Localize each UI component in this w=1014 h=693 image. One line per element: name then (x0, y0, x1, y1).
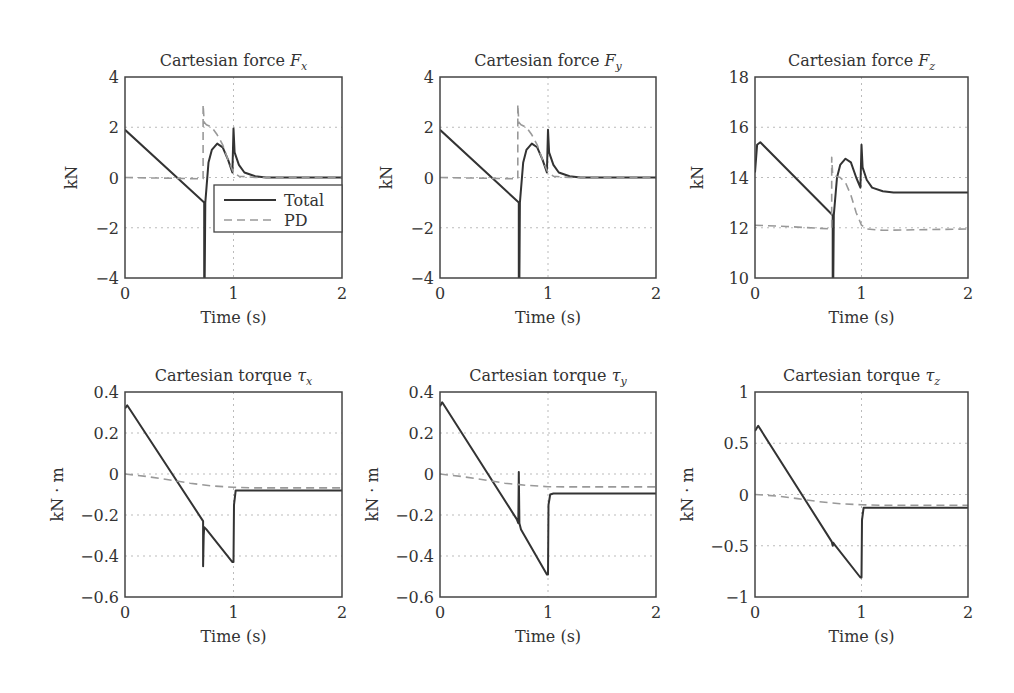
x-axis-label: Time (s) (200, 627, 266, 646)
subplot-title: Cartesian torque τz (783, 366, 940, 388)
y-tick-label: −0.5 (710, 537, 749, 556)
y-tick-label: 0 (739, 486, 749, 505)
y-tick-label: −0.2 (80, 506, 119, 525)
pd-series-line (755, 495, 968, 506)
y-tick-label: 14 (729, 169, 749, 188)
subplot-6: 012−1−0.500.51Cartesian torque τzTime (s… (678, 366, 973, 646)
x-tick-label: 0 (435, 284, 445, 303)
legend: TotalPD (214, 185, 342, 232)
x-axis-label: Time (s) (828, 308, 894, 327)
y-tick-label: 2 (109, 118, 119, 137)
y-axis-label: kN (688, 166, 707, 190)
subplot-title: Cartesian torque τx (155, 366, 313, 388)
y-axis-label: kN (377, 166, 396, 190)
subplot-title: Cartesian force Fz (788, 51, 935, 73)
x-tick-label: 2 (963, 603, 973, 622)
x-tick-label: 1 (228, 284, 238, 303)
pd-series-line (440, 474, 656, 487)
x-tick-label: 1 (856, 284, 866, 303)
y-tick-label: 4 (424, 68, 434, 87)
x-tick-label: 0 (120, 603, 130, 622)
y-tick-label: 4 (109, 68, 119, 87)
y-tick-label: 2 (424, 118, 434, 137)
x-tick-label: 0 (120, 284, 130, 303)
y-axis-label: kN · m (363, 467, 382, 521)
x-tick-label: 2 (963, 284, 973, 303)
y-tick-label: 0.5 (724, 434, 749, 453)
subplot-4: 012−0.6−0.4−0.200.20.4Cartesian torque τ… (48, 366, 347, 646)
subplot-2: 012−4−2024Cartesian force FyTime (s)kN (377, 51, 661, 327)
grid (125, 392, 342, 597)
y-tick-label: −2 (410, 219, 434, 238)
y-tick-label: −0.4 (80, 547, 119, 566)
y-tick-label: 0.4 (94, 383, 119, 402)
y-tick-label: −2 (95, 219, 119, 238)
y-tick-label: −1 (725, 588, 749, 607)
x-tick-label: 1 (543, 603, 553, 622)
y-tick-label: 12 (729, 219, 749, 238)
figure: 012−4−2024Cartesian force FxTime (s)kNTo… (0, 0, 1014, 693)
x-tick-label: 1 (228, 603, 238, 622)
x-tick-label: 2 (337, 284, 347, 303)
y-tick-label: 0.2 (94, 424, 119, 443)
y-tick-label: −0.4 (395, 547, 434, 566)
y-tick-label: −0.2 (395, 506, 434, 525)
y-tick-label: −4 (410, 269, 434, 288)
legend-total-label: Total (284, 191, 324, 210)
x-tick-label: 0 (750, 284, 760, 303)
y-tick-label: 0 (424, 465, 434, 484)
y-tick-label: 16 (729, 118, 749, 137)
x-tick-label: 1 (856, 603, 866, 622)
subplot-3: 0121012141618Cartesian force FzTime (s)k… (688, 51, 973, 327)
y-tick-label: 0 (424, 169, 434, 188)
x-tick-label: 0 (435, 603, 445, 622)
legend-pd-label: PD (284, 211, 308, 230)
x-axis-label: Time (s) (515, 627, 581, 646)
y-axis-label: kN · m (678, 467, 697, 521)
y-tick-label: −0.6 (80, 588, 119, 607)
y-tick-label: −0.6 (395, 588, 434, 607)
x-axis-label: Time (s) (200, 308, 266, 327)
x-axis-label: Time (s) (828, 627, 894, 646)
x-tick-label: 2 (651, 284, 661, 303)
y-tick-label: 0.2 (409, 424, 434, 443)
subplot-title: Cartesian torque τy (469, 366, 627, 388)
y-tick-label: −4 (95, 269, 119, 288)
subplot-title: Cartesian force Fy (474, 51, 622, 73)
subplot-title: Cartesian force Fx (160, 51, 308, 73)
subplot-5: 012−0.6−0.4−0.200.20.4Cartesian torque τ… (363, 366, 661, 646)
x-tick-label: 2 (337, 603, 347, 622)
y-tick-label: 1 (739, 383, 749, 402)
y-tick-label: 0 (109, 465, 119, 484)
y-axis-label: kN (62, 166, 81, 190)
y-tick-label: 0.4 (409, 383, 434, 402)
y-axis-label: kN · m (48, 467, 67, 521)
x-tick-label: 1 (543, 284, 553, 303)
y-tick-label: 18 (729, 68, 749, 87)
y-tick-label: 0 (109, 169, 119, 188)
subplot-1: 012−4−2024Cartesian force FxTime (s)kNTo… (62, 51, 347, 327)
y-tick-label: 10 (729, 269, 749, 288)
x-tick-label: 0 (750, 603, 760, 622)
x-axis-label: Time (s) (515, 308, 581, 327)
x-tick-label: 2 (651, 603, 661, 622)
